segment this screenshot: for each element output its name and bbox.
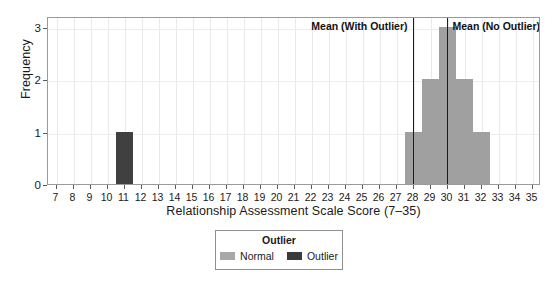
vertical-gridline xyxy=(210,18,211,184)
x-tick-label: 35 xyxy=(522,191,542,203)
reference-line-mean-no-outlier xyxy=(447,18,449,184)
x-tick-mark xyxy=(328,185,329,189)
histogram-bar xyxy=(422,79,439,184)
vertical-gridline xyxy=(397,18,398,184)
vertical-gridline xyxy=(295,18,296,184)
x-tick-mark xyxy=(107,185,108,189)
y-axis-tick-labels: 0123 xyxy=(24,0,41,283)
histogram-bar xyxy=(456,79,473,184)
vertical-gridline xyxy=(227,18,228,184)
x-tick-mark xyxy=(192,185,193,189)
vertical-gridline xyxy=(57,18,58,184)
vertical-gridline xyxy=(346,18,347,184)
vertical-gridline xyxy=(278,18,279,184)
x-tick-mark xyxy=(447,185,448,189)
x-tick-mark xyxy=(158,185,159,189)
reference-line-label-mean-no-outlier: Mean (No Outlier) xyxy=(453,20,541,32)
vertical-gridline xyxy=(516,18,517,184)
vertical-gridline xyxy=(142,18,143,184)
legend-item[interactable]: Normal xyxy=(220,250,274,262)
y-tick-label: 0 xyxy=(27,180,41,190)
x-axis-title: Relationship Assessment Scale Score (7–3… xyxy=(47,204,540,218)
legend-items: NormalOutlier xyxy=(216,250,342,262)
legend-swatch-outlier xyxy=(287,252,302,260)
legend-item[interactable]: Outlier xyxy=(287,250,338,262)
x-tick-mark xyxy=(209,185,210,189)
x-tick-mark xyxy=(124,185,125,189)
x-tick-mark xyxy=(175,185,176,189)
vertical-gridline xyxy=(244,18,245,184)
x-tick-mark xyxy=(73,185,74,189)
x-tick-mark xyxy=(141,185,142,189)
x-tick-mark xyxy=(56,185,57,189)
x-tick-mark xyxy=(396,185,397,189)
legend-label: Normal xyxy=(240,250,274,262)
x-tick-mark xyxy=(379,185,380,189)
x-tick-mark xyxy=(294,185,295,189)
x-tick-mark xyxy=(345,185,346,189)
x-tick-mark xyxy=(481,185,482,189)
vertical-gridline xyxy=(261,18,262,184)
plot-area: Mean (With Outlier)Mean (No Outlier) xyxy=(47,17,540,185)
histogram-figure: Frequency 0123 Mean (With Outlier)Mean (… xyxy=(0,0,556,283)
vertical-gridline xyxy=(363,18,364,184)
x-tick-mark xyxy=(311,185,312,189)
x-tick-mark xyxy=(413,185,414,189)
y-tick-label: 2 xyxy=(27,75,41,85)
vertical-gridline xyxy=(74,18,75,184)
x-tick-mark xyxy=(464,185,465,189)
x-tick-mark xyxy=(277,185,278,189)
vertical-gridline xyxy=(533,18,534,184)
vertical-gridline xyxy=(108,18,109,184)
x-tick-mark xyxy=(362,185,363,189)
y-tick-label: 1 xyxy=(27,128,41,138)
x-tick-mark xyxy=(260,185,261,189)
reference-line-label-mean-with-outlier: Mean (With Outlier) xyxy=(311,20,407,32)
vertical-gridline xyxy=(159,18,160,184)
vertical-gridline xyxy=(329,18,330,184)
y-tick-label: 3 xyxy=(27,23,41,33)
x-tick-mark xyxy=(532,185,533,189)
x-tick-mark xyxy=(90,185,91,189)
vertical-gridline xyxy=(499,18,500,184)
vertical-gridline xyxy=(312,18,313,184)
x-tick-mark xyxy=(226,185,227,189)
x-tick-mark xyxy=(243,185,244,189)
vertical-gridline xyxy=(193,18,194,184)
legend-title: Outlier xyxy=(216,234,342,246)
reference-line-mean-with-outlier xyxy=(413,18,415,184)
legend: Outlier NormalOutlier xyxy=(215,230,343,270)
legend-swatch-normal xyxy=(220,252,235,260)
vertical-gridline xyxy=(380,18,381,184)
x-tick-mark xyxy=(515,185,516,189)
vertical-gridline xyxy=(91,18,92,184)
vertical-gridline xyxy=(176,18,177,184)
legend-label: Outlier xyxy=(307,250,338,262)
x-tick-mark xyxy=(430,185,431,189)
x-tick-mark xyxy=(498,185,499,189)
histogram-bar xyxy=(473,132,490,185)
histogram-bar xyxy=(116,132,133,185)
